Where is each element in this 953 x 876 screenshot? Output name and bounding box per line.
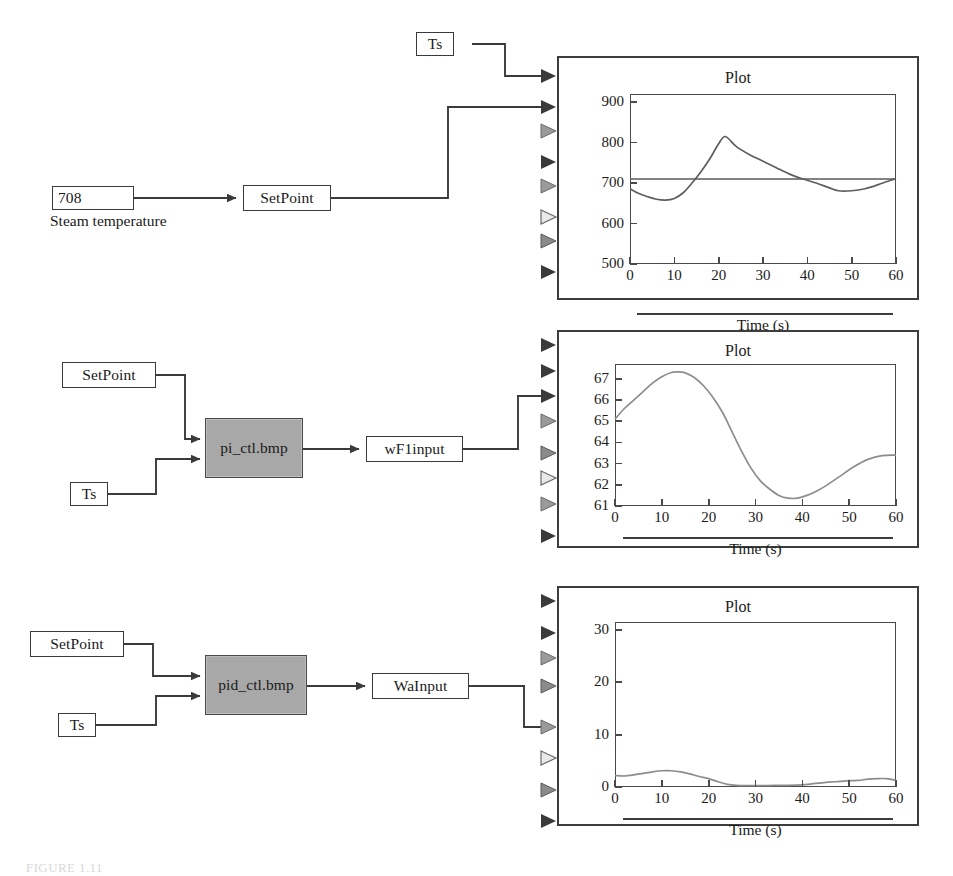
x-tick-label: 60 [878,509,914,526]
x-tick-label: 10 [656,267,692,284]
setpoint-block-row3[interactable]: SetPoint [30,631,124,657]
port-arrow-hollow[interactable] [541,124,556,138]
y-tick-label: 600 [576,215,624,232]
port-arrow-filled[interactable] [541,389,556,403]
x-tick-mark [895,780,897,787]
x-tick-mark [708,780,710,787]
steam-temp-value-block[interactable]: 708 [52,186,134,210]
x-tick-label: 10 [644,790,680,807]
plot-title-2: Plot [559,342,917,360]
port-arrow-filled[interactable] [541,100,556,114]
x-tick-label: 40 [784,509,820,526]
port-arrow-filled[interactable] [541,783,556,797]
data-trace [630,136,896,200]
port-arrow-hollow[interactable] [541,651,556,665]
y-tick-mark [630,101,637,103]
y-tick-label: 66 [561,391,609,408]
setpoint-block-row2[interactable]: SetPoint [62,362,156,388]
x-tick-mark [755,499,757,506]
port-arrow-filled[interactable] [541,626,556,640]
pi-controller-block[interactable]: pi_ctl.bmp [205,418,303,478]
port-arrow-filled[interactable] [541,594,556,608]
port-arrow-filled[interactable] [541,69,556,83]
y-tick-mark [615,399,622,401]
x-tick-mark [661,780,663,787]
port-arrow-hollow[interactable] [541,414,556,428]
x-tick-mark [848,780,850,787]
x-tick-mark [851,257,853,264]
x-tick-label: 0 [612,267,648,284]
x-tick-label: 50 [831,790,867,807]
ts-block-row1[interactable]: Ts [416,32,454,56]
y-tick-label: 64 [561,433,609,450]
plot-traces-1 [630,94,896,264]
y-tick-mark [615,629,622,631]
x-tick-mark [895,499,897,506]
x-tick-label: 0 [597,790,633,807]
port-arrow-filled[interactable] [541,446,556,460]
diagram-canvas: 708 Steam temperature SetPoint Ts SetPoi… [0,0,953,876]
y-tick-mark [615,420,622,422]
y-tick-mark [615,442,622,444]
x-tick-label: 10 [644,509,680,526]
data-trace [615,372,896,499]
port-arrow-filled[interactable] [541,529,556,543]
setpoint-block-row1[interactable]: SetPoint [243,185,331,211]
y-tick-label: 800 [576,134,624,151]
pid-controller-block[interactable]: pid_ctl.bmp [205,655,307,715]
plot-block-2[interactable]: Plot Time (s) 61626364656667010203040506… [557,330,919,548]
x-axis-rule-3 [623,818,893,820]
plot-traces-2 [615,364,896,506]
port-arrow-filled[interactable] [541,679,556,693]
port-arrow-filled[interactable] [541,338,556,352]
x-tick-label: 30 [745,267,781,284]
port-arrow-filled[interactable] [541,234,556,248]
port-arrow-filled[interactable] [541,155,556,169]
port-arrow-hollow[interactable] [541,179,556,193]
x-axis-label-2: Time (s) [615,540,896,558]
port-arrow-hollow[interactable] [541,751,556,765]
y-tick-label: 62 [561,476,609,493]
x-tick-label: 20 [691,790,727,807]
y-tick-label: 67 [561,370,609,387]
plot-block-3[interactable]: Plot Time (s) 01020300102030405060 [557,586,919,826]
y-tick-mark [615,484,622,486]
port-arrow-filled[interactable] [541,265,556,279]
y-tick-label: 65 [561,412,609,429]
x-tick-mark [718,257,720,264]
x-axis-rule-2 [623,537,893,539]
x-tick-label: 50 [831,509,867,526]
y-tick-mark [615,505,622,507]
port-arrow-hollow[interactable] [541,471,556,485]
x-tick-mark [629,257,631,264]
x-tick-label: 20 [701,267,737,284]
y-tick-mark [615,378,622,380]
port-arrow-hollow[interactable] [541,497,556,511]
y-tick-label: 10 [561,726,609,743]
port-arrow-filled[interactable] [541,364,556,378]
x-tick-mark [674,257,676,264]
plot-block-1[interactable]: Plot Time (s) 50060070080090001020304050… [557,56,919,300]
wf1input-block[interactable]: wF1input [366,436,463,462]
x-tick-mark [848,499,850,506]
wainput-block[interactable]: WaInput [372,673,469,699]
x-tick-mark [802,499,804,506]
y-tick-label: 900 [576,93,624,110]
y-tick-mark [615,463,622,465]
ts-block-row3[interactable]: Ts [58,713,96,737]
y-tick-mark [615,786,622,788]
y-tick-label: 63 [561,455,609,472]
figure-caption: FIGURE 1.11 [26,860,103,876]
y-tick-mark [615,681,622,683]
x-axis-rule-1 [637,313,893,315]
ts-block-row2[interactable]: Ts [70,482,108,506]
x-tick-label: 20 [691,509,727,526]
plot-3-ports [541,594,556,828]
port-arrow-filled[interactable] [541,814,556,828]
port-arrow-hollow[interactable] [541,720,556,734]
x-tick-mark [802,780,804,787]
x-tick-label: 40 [789,267,825,284]
port-arrow-hollow[interactable] [541,210,556,224]
y-tick-label: 700 [576,174,624,191]
steam-temp-caption: Steam temperature [50,212,167,230]
